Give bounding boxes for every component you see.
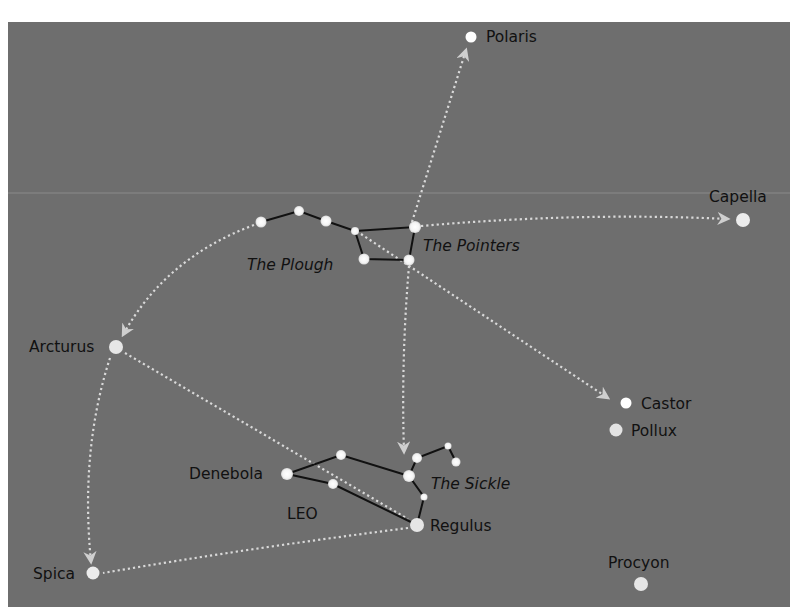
- star-arcturus-icon: [109, 340, 123, 354]
- pointer-path-spica: [88, 358, 110, 562]
- star-procyon-icon: [634, 577, 648, 591]
- star-icon: [412, 453, 422, 463]
- label-the-plough: The Plough: [247, 256, 333, 274]
- star-icon: [404, 255, 415, 266]
- star-regulus-icon: [410, 518, 424, 532]
- label-leo: LEO: [287, 505, 318, 523]
- label-polaris: Polaris: [486, 28, 537, 46]
- pointer-paths: [88, 50, 728, 573]
- star-capella-icon: [736, 213, 750, 227]
- label-pollux: Pollux: [631, 422, 677, 440]
- label-denebola: Denebola: [189, 465, 263, 483]
- label-castor: Castor: [641, 395, 692, 413]
- plough-lines: [261, 211, 415, 260]
- pointer-path-arcturus-regulus: [125, 353, 408, 519]
- star-icon: [281, 468, 293, 480]
- pointer-path-capella: [421, 217, 728, 226]
- star-pollux-icon: [610, 424, 623, 437]
- bright-stars: [87, 32, 751, 592]
- label-regulus: Regulus: [430, 517, 491, 535]
- star-icon: [294, 206, 304, 216]
- star-icon: [321, 216, 332, 227]
- pointer-path-leo: [403, 266, 409, 452]
- star-icon: [351, 227, 359, 235]
- label-the-sickle: The Sickle: [431, 475, 510, 493]
- star-icon: [328, 479, 338, 489]
- label-spica: Spica: [33, 565, 75, 583]
- pointer-path-arcturus: [123, 225, 254, 335]
- star-castor-icon: [621, 398, 632, 409]
- star-icon: [445, 443, 452, 450]
- label-the-pointers: The Pointers: [423, 237, 520, 255]
- star-polaris-icon: [466, 32, 477, 43]
- star-icon: [336, 450, 346, 460]
- star-icon: [421, 494, 428, 501]
- labels: Polaris Capella The Pointers The Plough …: [29, 28, 767, 583]
- star-icon: [403, 470, 415, 482]
- pointer-path-castor: [361, 234, 608, 398]
- star-icon: [452, 458, 461, 467]
- label-arcturus: Arcturus: [29, 338, 94, 356]
- label-procyon: Procyon: [608, 554, 670, 572]
- pointer-path-regulus-spica: [103, 528, 408, 573]
- label-capella: Capella: [709, 188, 767, 206]
- star-icon: [359, 254, 370, 265]
- pointer-path-polaris: [412, 50, 466, 222]
- star-spica-icon: [87, 567, 100, 580]
- star-hopping-diagram: Polaris Capella The Pointers The Plough …: [0, 0, 802, 614]
- star-icon: [256, 217, 267, 228]
- star-icon: [409, 221, 421, 233]
